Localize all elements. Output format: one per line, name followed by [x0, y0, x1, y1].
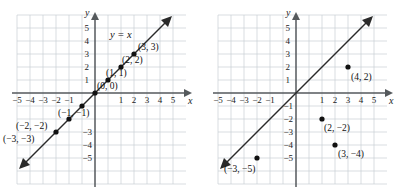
data-point [53, 129, 58, 134]
x-tick-label: 4 [359, 95, 364, 105]
data-point [319, 116, 324, 121]
right-data-points [254, 64, 350, 160]
y-tick-label: 2 [286, 62, 291, 72]
y-tick-label: −5 [82, 153, 92, 163]
x-tick-label: 1 [320, 95, 325, 105]
x-tick-label: 5 [372, 95, 377, 105]
data-point [345, 64, 350, 69]
y-tick-label: 1 [85, 75, 90, 85]
x-tick-label: 4 [158, 95, 163, 105]
figure-container: −5 −4 −3 −2 −1 1 2 3 4 5 5 4 3 2 1 −3 −4… [0, 0, 402, 196]
y-tick-label: 4 [85, 36, 90, 46]
left-x-tick-labels: −5 −4 −3 −2 −1 1 2 3 4 5 [12, 95, 176, 105]
point-label: (1, 1) [106, 68, 127, 79]
y-tick-label: 3 [85, 49, 90, 59]
y-tick-label: −2 [283, 114, 293, 124]
y-tick-label: −3 [283, 127, 293, 137]
y-tick-label: 2 [85, 62, 90, 72]
x-axis-name: x [187, 95, 193, 106]
point-label: (3, −4) [338, 149, 364, 160]
y-tick-label: 4 [286, 36, 291, 46]
data-point [92, 90, 97, 95]
point-label: (2, 2) [122, 55, 143, 66]
left-coordinate-plane: −5 −4 −3 −2 −1 1 2 3 4 5 5 4 3 2 1 −3 −4… [0, 0, 201, 196]
y-tick-label: −3 [82, 127, 92, 137]
y-axis-name: y [285, 7, 291, 18]
point-label: (3, 3) [138, 42, 159, 53]
x-tick-label: −5 [213, 95, 223, 105]
point-label: (4, 2) [351, 72, 372, 83]
x-tick-label: −1 [265, 95, 275, 105]
y-tick-label: 3 [286, 49, 291, 59]
point-label: (0, 0) [97, 81, 118, 92]
x-tick-label: −3 [38, 95, 48, 105]
y-tick-label: −1 [283, 101, 293, 111]
left-y-axis-arrowhead [91, 12, 99, 20]
point-label: (−2, −2) [16, 121, 47, 132]
y-tick-label: −4 [283, 140, 293, 150]
y-tick-label: 5 [286, 23, 291, 33]
y-tick-label: 1 [286, 75, 291, 85]
y-tick-label: −4 [82, 140, 92, 150]
right-coordinate-plane: −5 −4 −3 −2 −1 1 2 3 4 5 5 4 3 2 1 −1 −2… [201, 0, 402, 196]
equation-label: y = x [109, 29, 132, 40]
x-tick-label: −5 [12, 95, 22, 105]
x-tick-label: −4 [226, 95, 236, 105]
right-x-tick-labels: −5 −4 −3 −2 −1 1 2 3 4 5 [213, 95, 377, 105]
x-tick-label: 2 [333, 95, 338, 105]
panel-scatter-points: −5 −4 −3 −2 −1 1 2 3 4 5 5 4 3 2 1 −1 −2… [201, 0, 402, 196]
x-tick-label: 3 [145, 95, 150, 105]
data-point [254, 155, 259, 160]
x-tick-label: −2 [51, 95, 61, 105]
x-tick-label: −1 [64, 95, 74, 105]
y-axis-name: y [84, 7, 90, 18]
panel-line-y-equals-x: −5 −4 −3 −2 −1 1 2 3 4 5 5 4 3 2 1 −3 −4… [0, 0, 201, 196]
x-tick-label: −4 [25, 95, 35, 105]
x-tick-label: 1 [119, 95, 124, 105]
x-tick-label: 2 [132, 95, 137, 105]
x-tick-label: −3 [239, 95, 249, 105]
point-label: (−1, −1) [58, 108, 89, 119]
x-tick-label: −2 [252, 95, 262, 105]
right-y-axis-arrowhead [292, 12, 300, 20]
point-label: (2, −2) [324, 123, 350, 134]
data-point [332, 142, 337, 147]
right-point-labels: (4, 2) (2, −2) (3, −4) (−3, −5) [224, 72, 372, 175]
y-tick-label: 5 [85, 23, 90, 33]
x-tick-label: 5 [171, 95, 176, 105]
point-label: (−3, −5) [224, 164, 255, 175]
x-tick-label: 3 [346, 95, 351, 105]
y-tick-label: −5 [283, 153, 293, 163]
x-axis-name: x [388, 95, 394, 106]
point-label: (−3, −3) [3, 134, 34, 145]
